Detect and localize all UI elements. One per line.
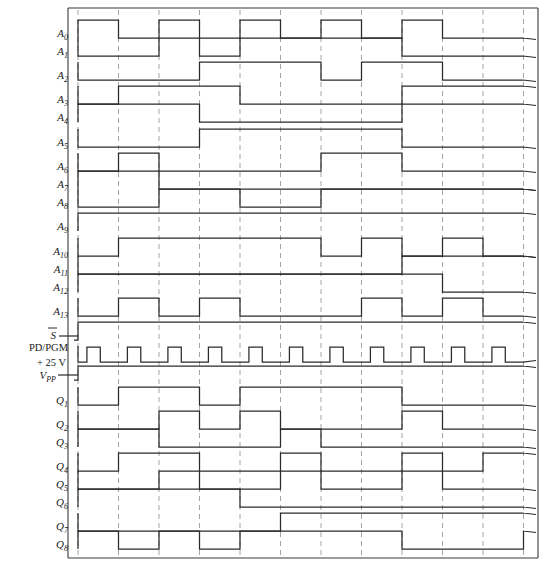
figure-background bbox=[0, 0, 550, 563]
timing-diagram-canvas: A0A1A2A3A4A5A6A7A8A9A10A11A12A13SPD/PGM+… bbox=[0, 0, 550, 563]
timing-diagram-figure: A0A1A2A3A4A5A6A7A8A9A10A11A12A13SPD/PGM+… bbox=[0, 0, 550, 563]
label-PDPGM: PD/PGM bbox=[29, 342, 69, 353]
signal-label-s-bar: S bbox=[51, 329, 57, 341]
voltage-note-25v: + 25 V bbox=[37, 357, 66, 368]
signal-label-pd-pgm: PD/PGM bbox=[29, 342, 69, 353]
